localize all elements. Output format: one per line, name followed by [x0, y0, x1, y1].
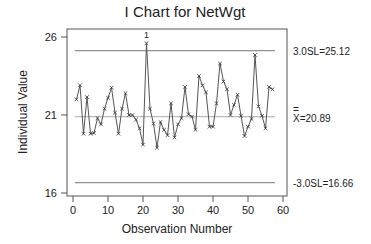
i-chart: I Chart for NetWgt Individual Value Obse… — [0, 0, 371, 244]
x-marker-icon — [271, 87, 275, 91]
y-axis: 162126 — [45, 31, 67, 199]
x-axis: 0102030405060 — [70, 196, 289, 216]
x-axis-label: Observation Number — [122, 222, 233, 236]
x-tick-label: 30 — [172, 204, 184, 216]
x-tick-label: 10 — [102, 204, 114, 216]
x-tick-label: 20 — [137, 204, 149, 216]
y-axis-label: Individual Value — [16, 70, 30, 154]
data-series — [75, 41, 275, 149]
lcl-label: -3.0SL=16.66 — [293, 178, 354, 189]
annotations: 1 — [144, 30, 149, 40]
x-tick-label: 40 — [207, 204, 219, 216]
test-failure-annotation: 1 — [144, 30, 149, 40]
y-tick-label: 16 — [45, 187, 57, 199]
y-tick-label: 21 — [45, 109, 57, 121]
chart-title: I Chart for NetWgt — [125, 3, 247, 20]
x-tick-label: 50 — [242, 204, 254, 216]
center-label: X=20.89 — [293, 113, 331, 124]
y-tick-label: 26 — [45, 31, 57, 43]
x-tick-label: 60 — [277, 204, 289, 216]
x-marker-icon — [162, 128, 166, 132]
x-tick-label: 0 — [70, 204, 76, 216]
series-line — [77, 43, 273, 148]
ucl-label: 3.0SL=25.12 — [293, 46, 350, 57]
